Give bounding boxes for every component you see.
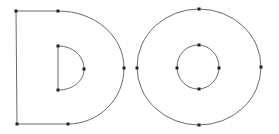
anchor-point (136, 67, 139, 70)
glyph-outline-canvas (0, 0, 279, 134)
glyph-d-inner-contour (58, 46, 84, 90)
anchor-point (67, 123, 70, 126)
anchor-point (57, 89, 60, 92)
anchor-point (83, 68, 86, 71)
glyph-outline-svg (0, 0, 279, 134)
anchor-point (57, 10, 60, 13)
anchor-point (123, 67, 126, 70)
anchor-point (15, 10, 18, 13)
glyph-o-inner-contour (177, 45, 219, 89)
anchor-point (16, 123, 19, 126)
anchor-point (218, 67, 221, 70)
anchor-point (198, 124, 201, 127)
glyph-d-outer-contour (16, 11, 124, 124)
anchor-point (176, 67, 179, 70)
glyph-o-outer-contour (137, 9, 261, 125)
anchor-point (57, 45, 60, 48)
anchor-point (198, 44, 201, 47)
anchor-point (260, 66, 263, 69)
anchor-point (198, 88, 201, 91)
anchor-point (198, 8, 201, 11)
